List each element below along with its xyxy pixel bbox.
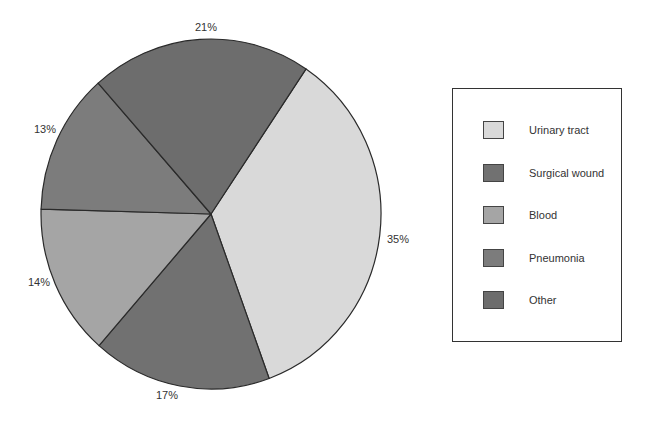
swatch-pneumonia — [483, 249, 504, 267]
legend-item-blood: Blood — [483, 205, 557, 225]
label-urinary-tract-pct: 35% — [387, 233, 409, 245]
label-other-pct: 21% — [195, 21, 217, 33]
legend-item-other: Other — [483, 290, 557, 310]
label-surgical-wound-pct: 17% — [156, 389, 178, 401]
swatch-blood — [483, 206, 504, 224]
legend: Urinary tract Surgical wound Blood Pneum… — [452, 88, 622, 342]
label-pneumonia-pct: 13% — [34, 123, 56, 135]
swatch-other — [483, 291, 504, 309]
swatch-urinary-tract — [483, 121, 504, 139]
legend-label: Blood — [529, 209, 557, 221]
legend-item-pneumonia: Pneumonia — [483, 248, 585, 268]
legend-label: Urinary tract — [529, 124, 589, 136]
legend-item-surgical-wound: Surgical wound — [483, 163, 604, 183]
legend-label: Pneumonia — [529, 252, 585, 264]
swatch-surgical-wound — [483, 164, 504, 182]
legend-label: Surgical wound — [529, 167, 604, 179]
legend-label: Other — [529, 294, 557, 306]
legend-item-urinary-tract: Urinary tract — [483, 120, 589, 140]
label-blood-pct: 14% — [28, 276, 50, 288]
